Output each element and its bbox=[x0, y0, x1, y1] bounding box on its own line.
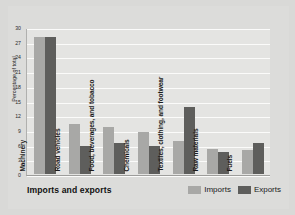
x-axis-title: Imports and exports bbox=[27, 185, 112, 195]
bar-imports[interactable] bbox=[242, 150, 253, 175]
legend-label: Imports bbox=[204, 185, 231, 194]
legend-swatch-imports bbox=[188, 186, 201, 194]
bar-imports[interactable] bbox=[103, 127, 114, 174]
chart-legend: ImportsExports bbox=[188, 185, 281, 194]
category-label: Machinery bbox=[20, 140, 27, 172]
category-label: Raw materials bbox=[193, 129, 200, 172]
y-axis-tick-label: 18 bbox=[15, 85, 21, 90]
bar-imports[interactable] bbox=[138, 132, 149, 174]
bar-group: Raw materials bbox=[201, 29, 236, 174]
y-axis-tick-label: 27 bbox=[15, 41, 21, 46]
category-label: Textiles, clothing, and footwear bbox=[159, 77, 166, 172]
plot-area: MachineryRoad vehiclesFood, beverages, a… bbox=[26, 29, 270, 176]
bar-group: Fuels bbox=[235, 29, 270, 174]
y-axis-tick-label: 24 bbox=[15, 56, 21, 61]
category-label: Food, beverages, and tobacco bbox=[90, 80, 97, 172]
bars-layer: MachineryRoad vehiclesFood, beverages, a… bbox=[28, 29, 270, 174]
gridline bbox=[27, 176, 270, 177]
chart-figure: Percentage of total 036912151821242730 M… bbox=[0, 0, 295, 215]
y-axis-tick-label: 21 bbox=[15, 70, 21, 75]
legend-swatch-exports bbox=[238, 186, 251, 194]
bar-imports[interactable] bbox=[207, 149, 218, 174]
y-axis-tick-label: 9 bbox=[18, 129, 21, 134]
legend-item[interactable]: Imports bbox=[188, 185, 231, 194]
bar-imports[interactable] bbox=[173, 141, 184, 174]
category-label: Fuels bbox=[228, 155, 235, 172]
category-label: Road vehicles bbox=[55, 129, 62, 172]
y-axis-tick-label: 0 bbox=[18, 173, 21, 178]
plot-wrapper: MachineryRoad vehiclesFood, beverages, a… bbox=[26, 29, 270, 176]
bar-imports[interactable] bbox=[34, 37, 45, 174]
legend-label: Exports bbox=[254, 185, 281, 194]
category-label: Chemicals bbox=[124, 140, 131, 172]
legend-item[interactable]: Exports bbox=[238, 185, 281, 194]
bar-imports[interactable] bbox=[69, 124, 80, 174]
y-axis-tick-label: 12 bbox=[15, 115, 21, 120]
y-axis-tick-label: 15 bbox=[15, 100, 21, 105]
y-axis-tick-label: 30 bbox=[15, 26, 21, 31]
bar-exports[interactable] bbox=[253, 143, 264, 174]
